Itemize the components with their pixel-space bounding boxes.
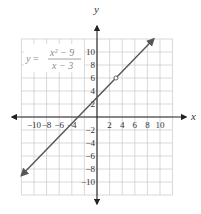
x-tick-label: 4 xyxy=(120,120,125,130)
x-tick-label: −4 xyxy=(67,120,77,130)
y-tick-label: −10 xyxy=(81,177,96,187)
y-tick-label: −6 xyxy=(85,151,95,161)
y-tick-label: −2 xyxy=(85,125,95,135)
x-axis-label: x xyxy=(190,110,196,122)
y-axis-label: y xyxy=(93,3,99,15)
graph: −10−8−6−4246810108642−2−4−6−8−10 y = x² … xyxy=(0,0,201,214)
y-tick-label: 8 xyxy=(91,60,96,70)
x-tick-label: 2 xyxy=(107,120,112,130)
y-tick-label: 10 xyxy=(86,47,96,57)
x-tick-label: −8 xyxy=(42,120,52,130)
svg-text:y =: y = xyxy=(25,53,39,64)
x-tick-label: 8 xyxy=(145,120,150,130)
y-tick-label: −8 xyxy=(85,164,95,174)
y-tick-label: 6 xyxy=(91,73,96,83)
x-tick-label: 10 xyxy=(156,120,166,130)
x-tick-label: −10 xyxy=(27,120,42,130)
equation-label: y = x² − 9 x − 3 xyxy=(24,44,84,72)
y-tick-label: 4 xyxy=(91,86,96,96)
equation-denominator: x − 3 xyxy=(51,60,73,71)
x-tick-label: 6 xyxy=(133,120,138,130)
x-tick-label: −6 xyxy=(54,120,64,130)
hole-open-circle xyxy=(114,76,118,80)
y-tick-label: −4 xyxy=(85,138,95,148)
equation-numerator: x² − 9 xyxy=(49,47,74,58)
